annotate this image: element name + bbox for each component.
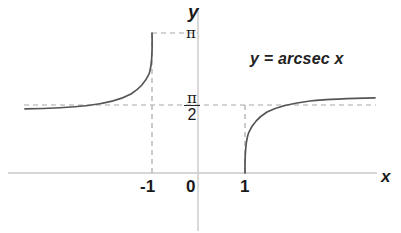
plot-canvas: [0, 0, 401, 233]
x-tick-label-zero: 0: [186, 178, 195, 195]
axis-label-x: x: [381, 168, 390, 185]
curve-arcsec-right-branch: [245, 98, 375, 173]
half-pi-numerator: π: [184, 92, 200, 106]
x-tick-label-one: 1: [240, 178, 249, 195]
half-pi-denominator: 2: [184, 106, 200, 123]
curve-arcsec-left-branch: [25, 33, 152, 109]
axis-label-y: y: [188, 2, 199, 21]
equation-annotation: y = arcsec x: [250, 51, 344, 67]
y-tick-label-pi: π: [186, 26, 196, 41]
x-tick-label-negative-one: -1: [140, 178, 155, 195]
y-tick-label-half-pi: π 2: [184, 92, 200, 123]
arcsec-graph-figure: y x π π 2 -1 0 1 y = arcsec x: [0, 0, 401, 233]
